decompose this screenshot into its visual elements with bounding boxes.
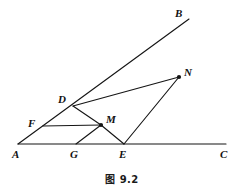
vertex-label-n: N xyxy=(184,67,192,78)
line-GM xyxy=(76,125,101,144)
vertex-label-b: B xyxy=(175,8,182,19)
segment-layer xyxy=(18,19,226,144)
figure-caption: 图 9.2 xyxy=(0,171,244,186)
line-DM xyxy=(73,106,101,125)
point-marker-m xyxy=(99,123,103,127)
geometry-canvas xyxy=(0,0,244,194)
vertex-label-d: D xyxy=(58,94,66,105)
vertex-label-g: G xyxy=(70,149,78,160)
vertex-label-e: E xyxy=(119,149,126,160)
vertex-label-f: F xyxy=(28,118,35,129)
vertex-label-m: M xyxy=(106,114,116,125)
geometry-figure: ABCDEFGMN 图 9.2 xyxy=(0,0,244,194)
line-FM xyxy=(43,125,101,126)
line-ME xyxy=(101,125,124,144)
point-marker-n xyxy=(177,75,181,79)
line-EN xyxy=(124,77,179,144)
vertex-label-c: C xyxy=(220,149,227,160)
vertex-label-a: A xyxy=(12,149,19,160)
